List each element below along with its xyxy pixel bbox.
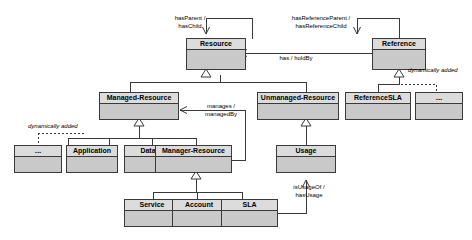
node-manager-resource-label: Manager-Resource	[156, 146, 231, 157]
edge-label-manages-line1: manages /	[195, 103, 247, 111]
node-unmanaged-resource-body	[258, 104, 338, 119]
node-usage[interactable]: Usage	[276, 145, 336, 173]
node-account[interactable]: Account	[172, 199, 226, 227]
edge-has-reference-parent-child	[357, 18, 399, 39]
edge-gen-referencesla-to-reference	[378, 75, 399, 93]
edge-label-dynamically-added-right: dynamically added	[408, 67, 458, 75]
edge-label-has-reference-parent: hasReferenceParent / hasReferenceChild	[281, 15, 361, 30]
node-reference-label: Reference	[373, 39, 425, 50]
node-resource-body	[187, 50, 245, 69]
node-manager-resource[interactable]: Manager-Resource	[155, 145, 232, 173]
node-reference-ellipsis-label: ...	[416, 93, 462, 104]
node-sla[interactable]: SLA	[221, 199, 278, 227]
edge-label-manages: manages / managedBy	[195, 103, 247, 118]
node-resource-label: Resource	[187, 39, 245, 50]
edge-gen-dashed-reference-ellipsis	[399, 78, 436, 93]
edge-label-is-usage-of-line2: hasUsage	[284, 192, 334, 200]
node-manager-resource-body	[156, 157, 231, 172]
node-sla-label: SLA	[222, 200, 277, 211]
node-reference-sla[interactable]: ReferenceSLA	[345, 92, 411, 120]
node-service-label: Service	[125, 200, 179, 211]
node-usage-label: Usage	[277, 146, 335, 157]
node-application-body	[67, 157, 117, 172]
edge-label-has-holdby-line1: has / holdBy	[265, 55, 327, 63]
node-reference-ellipsis-body	[416, 104, 462, 119]
edge-label-has-holdby: has / holdBy	[265, 55, 327, 63]
edge-label-manages-line2: managedBy	[195, 111, 247, 119]
node-application[interactable]: Application	[66, 145, 118, 173]
node-unmanaged-resource[interactable]: Unmanaged-Resource	[257, 92, 339, 120]
node-account-body	[173, 211, 225, 226]
node-managed-ellipsis-body	[15, 157, 61, 172]
node-unmanaged-resource-label: Unmanaged-Resource	[258, 93, 338, 104]
edge-label-has-reference-parent-line2: hasReferenceChild	[281, 23, 361, 31]
edge-gen-managed-to-resource	[130, 75, 220, 93]
edge-label-dynamically-added-right-text: dynamically added	[408, 67, 458, 73]
node-reference[interactable]: Reference	[372, 38, 426, 70]
edge-label-has-reference-parent-line1: hasReferenceParent /	[281, 15, 361, 23]
node-sla-body	[222, 211, 277, 226]
edge-label-has-parent-line2: hasChild	[164, 23, 216, 31]
edge-label-has-parent: hasParent / hasChild	[164, 15, 216, 30]
edge-label-dynamically-added-left-text: dynamically added	[28, 123, 78, 129]
node-managed-resource[interactable]: Managed-Resource	[99, 92, 179, 120]
node-reference-sla-label: ReferenceSLA	[346, 93, 410, 104]
node-managed-ellipsis[interactable]: ...	[14, 145, 62, 173]
triangle-resource-generalization	[201, 69, 211, 77]
edge-label-has-parent-line1: hasParent /	[164, 15, 216, 23]
node-usage-body	[277, 157, 335, 172]
node-reference-ellipsis[interactable]: ...	[415, 92, 463, 120]
edge-gen-service-to-manager	[153, 177, 196, 200]
edge-label-dynamically-added-left: dynamically added	[28, 123, 78, 131]
edge-gen-app-bus	[68, 124, 139, 146]
node-managed-ellipsis-label: ...	[15, 146, 61, 157]
edge-label-is-usage-of: isUsageOf / hasUsage	[284, 184, 334, 199]
node-resource[interactable]: Resource	[186, 38, 246, 70]
node-account-label: Account	[173, 200, 225, 211]
node-managed-resource-body	[100, 104, 178, 119]
diagram-canvas: Resource Reference Managed-Resource Unma…	[0, 0, 472, 240]
edge-label-is-usage-of-line1: isUsageOf /	[284, 184, 334, 192]
triangle-reference-generalization	[394, 69, 404, 77]
node-managed-resource-label: Managed-Resource	[100, 93, 178, 104]
node-reference-sla-body	[346, 104, 410, 119]
node-application-label: Application	[67, 146, 117, 157]
node-service-body	[125, 211, 179, 226]
